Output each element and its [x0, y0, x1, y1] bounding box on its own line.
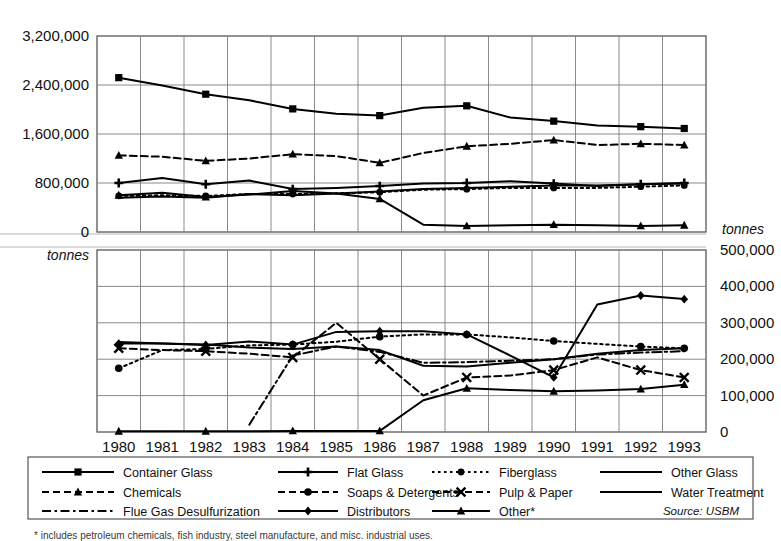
y-axis-unit-right: tonnes — [722, 221, 764, 237]
y-axis-tick-right: 400,000 — [720, 277, 774, 294]
x-axis-tick-1980: 1980 — [102, 438, 135, 455]
legend-label: Chemicals — [123, 486, 181, 500]
data-point-circle — [463, 331, 471, 339]
data-point-square — [289, 105, 296, 112]
legend-label: Water Treatment — [671, 486, 764, 500]
y-axis-tick-left: 800,000 — [35, 174, 89, 191]
legend-label: Flue Gas Desulfurization — [123, 505, 260, 519]
legend-label: Pulp & Paper — [499, 486, 573, 500]
data-point-square — [376, 112, 383, 119]
data-point-circle — [376, 333, 384, 341]
data-point-square — [202, 91, 209, 98]
data-point-circle — [304, 488, 312, 496]
footnote-text: * includes petroleum chemicals, fish ind… — [34, 530, 433, 541]
x-axis-tick-1989: 1989 — [494, 438, 527, 455]
data-point-square — [550, 118, 557, 125]
x-axis-tick-1993: 1993 — [668, 438, 701, 455]
data-point-dot-big — [463, 186, 470, 193]
x-axis-tick-1988: 1988 — [450, 438, 483, 455]
x-axis-tick-1985: 1985 — [320, 438, 353, 455]
x-axis-tick-1987: 1987 — [407, 438, 440, 455]
y-axis-tick-left: 3,200,000 — [22, 27, 89, 44]
x-axis-tick-1992: 1992 — [624, 438, 657, 455]
y-axis-tick-right: 200,000 — [720, 350, 774, 367]
legend-label: Container Glass — [123, 466, 213, 480]
legend-label: Fiberglass — [499, 466, 557, 480]
x-axis-tick-1986: 1986 — [363, 438, 396, 455]
y-axis-tick-right: 300,000 — [720, 314, 774, 331]
data-point-square — [681, 125, 688, 132]
y-axis-tick-right: 0 — [720, 423, 728, 440]
data-point-circle — [115, 365, 123, 373]
y-axis-tick-left: 0 — [81, 223, 89, 240]
legend-label: Soaps & Detergents — [347, 486, 459, 500]
x-axis-tick-1981: 1981 — [146, 438, 179, 455]
x-axis-tick-1983: 1983 — [233, 438, 266, 455]
legend-label: Other* — [499, 505, 535, 519]
y-axis-tick-left: 1,600,000 — [22, 125, 89, 142]
x-axis-tick-1984: 1984 — [276, 438, 309, 455]
data-point-circle — [289, 341, 297, 349]
y-axis-tick-right: 100,000 — [720, 387, 774, 404]
data-point-square — [115, 74, 122, 81]
y-axis-tick-left: 2,400,000 — [22, 76, 89, 93]
data-point-circle — [550, 337, 558, 345]
x-axis-tick-1990: 1990 — [537, 438, 570, 455]
legend-label: Flat Glass — [347, 466, 403, 480]
data-point-square — [463, 102, 470, 109]
legend-label: Other Glass — [671, 466, 738, 480]
y-axis-unit-left: tonnes — [47, 247, 89, 263]
x-axis-tick-1982: 1982 — [189, 438, 222, 455]
x-axis-tick-1991: 1991 — [581, 438, 614, 455]
y-axis-tick-right: 500,000 — [720, 241, 774, 258]
data-point-square — [74, 468, 81, 475]
legend-source-note: Source: USBM — [663, 505, 739, 517]
data-point-square — [637, 123, 644, 130]
legend-label: Distributors — [347, 505, 410, 519]
data-point-dot-big — [458, 469, 465, 476]
